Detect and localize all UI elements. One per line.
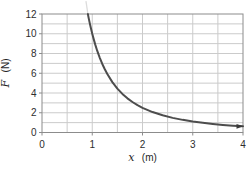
y-tick-label: 10 [25,28,37,39]
force-distance-figure: 01234024681012 F (N) x (m) [0,0,252,175]
y-tick-label: 0 [31,127,37,138]
curve-arrowhead [237,124,244,129]
series-layer [86,1,244,129]
y-axis-variable: F [0,79,12,88]
x-tick-label: 1 [89,139,95,150]
tick-label-layer: 01234024681012 [25,9,246,151]
curve-extension [86,1,88,14]
chart-svg: 01234024681012 F (N) x (m) [0,0,252,175]
y-tick-label: 4 [31,88,37,99]
force-curve [88,14,243,126]
y-axis-unit: (N) [0,59,11,73]
x-tick-label: 4 [240,139,246,150]
y-axis-label: F (N) [0,59,12,89]
x-tick-label: 0 [39,139,45,150]
x-tick-label: 3 [190,139,196,150]
y-tick-label: 12 [25,9,37,20]
grid-layer [42,14,243,133]
y-tick-label: 6 [31,68,37,79]
x-tick-label: 2 [140,139,146,150]
axis-layer [39,14,243,136]
x-axis-unit: (m) [142,152,157,163]
y-tick-label: 2 [31,107,37,118]
y-tick-label: 8 [31,48,37,59]
x-axis-variable: x [128,151,135,164]
